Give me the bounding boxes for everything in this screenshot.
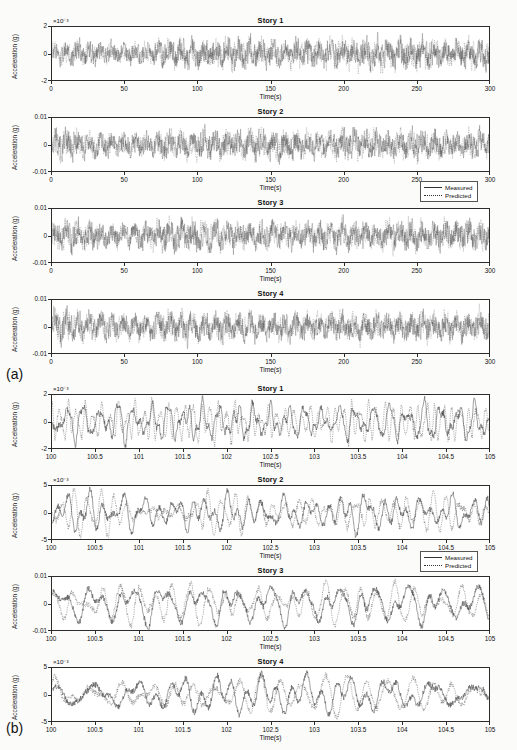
y-tick-mark: [48, 485, 51, 486]
x-tick-label: 0: [35, 358, 67, 365]
x-tick-mark: [227, 631, 228, 634]
x-tick-mark: [271, 354, 272, 357]
x-tick-label: 100.5: [79, 544, 111, 551]
y-axis-exponent: ×10⁻³: [53, 658, 69, 665]
x-tick-label: 50: [108, 85, 140, 92]
panel-title: Story 2: [51, 475, 490, 484]
x-tick-label: 150: [255, 176, 287, 183]
legend: MeasuredPredicted: [420, 551, 478, 572]
x-tick-label: 101.5: [167, 726, 199, 733]
x-tick-mark: [183, 722, 184, 725]
x-tick-label: 50: [108, 267, 140, 274]
plot-panel: Story 3: [51, 576, 490, 631]
y-tick-label: 0.01: [17, 113, 47, 120]
x-tick-label: 0: [35, 176, 67, 183]
y-tick-label: 0: [17, 418, 47, 425]
x-tick-label: 102.5: [255, 544, 287, 551]
x-tick-mark: [314, 449, 315, 452]
x-tick-label: 100: [181, 358, 213, 365]
plot-axes: [51, 208, 490, 263]
y-tick-mark: [48, 236, 51, 237]
y-tick-label: 0: [17, 691, 47, 698]
x-tick-mark: [344, 263, 345, 266]
plot-panel: Story 4: [51, 299, 490, 354]
x-tick-mark: [271, 172, 272, 175]
y-tick-mark: [48, 576, 51, 577]
x-axis-label: Time(s): [51, 734, 490, 741]
x-tick-mark: [358, 631, 359, 634]
x-tick-mark: [51, 81, 52, 84]
x-tick-label: 300: [474, 358, 506, 365]
x-tick-label: 250: [401, 85, 433, 92]
y-tick-label: 0: [17, 509, 47, 516]
x-tick-mark: [344, 81, 345, 84]
y-tick-mark: [48, 299, 51, 300]
x-axis-label: Time(s): [51, 366, 490, 373]
predicted-trace: [52, 35, 489, 75]
x-tick-mark: [344, 172, 345, 175]
x-tick-mark: [271, 722, 272, 725]
x-tick-mark: [314, 540, 315, 543]
x-tick-mark: [51, 631, 52, 634]
x-tick-label: 103: [298, 726, 330, 733]
plot-panel: Story 2: [51, 485, 490, 540]
x-tick-label: 101.5: [167, 544, 199, 551]
x-tick-mark: [417, 81, 418, 84]
y-tick-mark: [48, 54, 51, 55]
y-axis-label: Acceleration (g): [11, 125, 18, 170]
plot-axes: [51, 667, 490, 722]
y-tick-label: 5: [17, 663, 47, 670]
y-axis-label: Acceleration (g): [11, 675, 18, 720]
y-axis-label: Acceleration (g): [11, 584, 18, 629]
x-tick-mark: [446, 631, 447, 634]
x-tick-label: 300: [474, 85, 506, 92]
x-axis-label: Time(s): [51, 93, 490, 100]
x-tick-label: 105: [474, 726, 506, 733]
x-tick-mark: [124, 263, 125, 266]
x-tick-mark: [51, 172, 52, 175]
x-tick-label: 101: [123, 726, 155, 733]
y-tick-label: 2: [17, 390, 47, 397]
x-tick-label: 100: [35, 726, 67, 733]
y-tick-label: 0.01: [17, 295, 47, 302]
x-tick-label: 103.5: [342, 453, 374, 460]
y-tick-mark: [48, 26, 51, 27]
panel-title: Story 2: [51, 107, 490, 116]
x-tick-label: 102.5: [255, 726, 287, 733]
x-tick-label: 100.5: [79, 726, 111, 733]
y-tick-mark: [48, 327, 51, 328]
x-tick-mark: [124, 81, 125, 84]
x-tick-mark: [489, 722, 490, 725]
x-tick-mark: [344, 354, 345, 357]
x-axis-label: Time(s): [51, 461, 490, 468]
legend-item: Measured: [424, 554, 473, 561]
x-tick-label: 100: [35, 635, 67, 642]
x-tick-mark: [95, 540, 96, 543]
plot-axes: [51, 394, 490, 449]
plot-axes: [51, 576, 490, 631]
x-tick-label: 101.5: [167, 635, 199, 642]
x-tick-mark: [139, 631, 140, 634]
plot-panel: Story 2: [51, 117, 490, 172]
x-tick-mark: [271, 631, 272, 634]
plot-axes: [51, 117, 490, 172]
x-tick-mark: [271, 81, 272, 84]
legend-dotted-line-icon: [424, 195, 442, 196]
x-tick-mark: [183, 540, 184, 543]
y-tick-label: -2: [17, 77, 47, 84]
y-tick-label: 0: [17, 323, 47, 330]
plot-panel: Story 1: [51, 26, 490, 81]
y-tick-label: 0: [17, 600, 47, 607]
x-tick-mark: [402, 540, 403, 543]
x-tick-mark: [358, 449, 359, 452]
x-tick-mark: [314, 722, 315, 725]
legend-item: Predicted: [424, 562, 473, 569]
y-tick-mark: [48, 117, 51, 118]
y-tick-label: -0.01: [17, 259, 47, 266]
x-tick-label: 104: [386, 453, 418, 460]
x-tick-label: 250: [401, 358, 433, 365]
x-tick-mark: [446, 449, 447, 452]
x-tick-mark: [197, 172, 198, 175]
x-tick-label: 200: [328, 267, 360, 274]
panel-title: Story 4: [51, 657, 490, 666]
